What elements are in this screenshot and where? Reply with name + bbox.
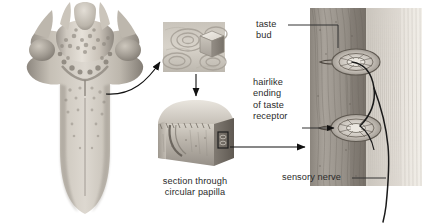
figure-taste-bud-anatomy: taste bud hairlike ending of taste recep…	[0, 0, 422, 224]
label-sensory-nerve: sensory nerve	[282, 172, 341, 183]
label-hairlike-ending: hairlike ending of taste receptor	[253, 77, 288, 123]
connector-tongue-to-inset	[106, 62, 160, 94]
leader-taste-bud	[288, 25, 338, 48]
label-taste-bud: taste bud	[256, 19, 276, 42]
caption-section-through-circular-papilla: section through circular papilla	[145, 176, 245, 199]
